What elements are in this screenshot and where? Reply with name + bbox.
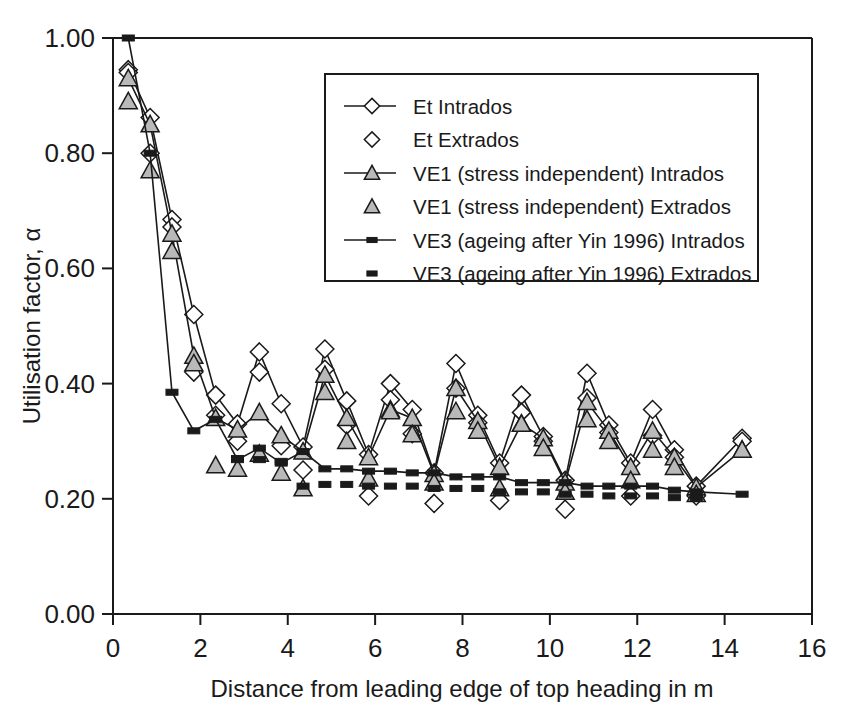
marker-filled-square bbox=[188, 428, 200, 434]
x-tick-label: 0 bbox=[106, 633, 120, 663]
x-tick-label: 14 bbox=[710, 633, 739, 663]
marker-filled-square bbox=[668, 487, 680, 493]
marker-filled-square bbox=[341, 466, 353, 472]
legend-item-5[interactable]: VE3 (ageing after Yin 1996) Extrados bbox=[367, 262, 752, 285]
x-tick-label: 10 bbox=[535, 633, 564, 663]
y-tick-label: 0.40 bbox=[44, 369, 95, 399]
chart-figure: 0.000.200.400.600.801.00 0246810121416 U… bbox=[0, 0, 854, 719]
marker-filled-square bbox=[275, 458, 287, 464]
y-tick-label: 0.20 bbox=[44, 484, 95, 514]
marker-filled-square bbox=[253, 457, 265, 463]
x-tick-label: 2 bbox=[193, 633, 207, 663]
marker-filled-square bbox=[297, 449, 309, 455]
marker-filled-square bbox=[494, 474, 506, 480]
x-tick-label: 12 bbox=[623, 633, 652, 663]
marker-filled-square bbox=[297, 483, 309, 489]
marker-filled-square bbox=[690, 495, 702, 501]
marker-filled-square bbox=[559, 491, 571, 497]
y-tick-label: 0.00 bbox=[44, 599, 95, 629]
marker-filled-square bbox=[515, 480, 527, 486]
marker-filled-square bbox=[625, 483, 637, 489]
marker-filled-square bbox=[647, 483, 659, 489]
x-tick-label: 8 bbox=[455, 633, 469, 663]
marker-filled-square bbox=[559, 480, 571, 486]
marker-filled-square bbox=[603, 483, 615, 489]
legend-label: Et Extrados bbox=[413, 128, 519, 151]
marker-filled-square bbox=[406, 470, 418, 476]
marker-filled-square bbox=[428, 470, 440, 476]
marker-filled-square bbox=[166, 389, 178, 395]
marker-filled-square bbox=[603, 493, 615, 499]
marker-filled-square bbox=[450, 474, 462, 480]
marker-filled-square bbox=[253, 445, 265, 451]
marker-filled-square bbox=[537, 480, 549, 486]
marker-filled-square bbox=[668, 495, 680, 501]
legend-label: Et Intrados bbox=[413, 95, 512, 118]
y-axis-title: Utilisation factor, α bbox=[18, 228, 45, 425]
marker-filled-square bbox=[232, 455, 244, 461]
marker-filled-square bbox=[428, 485, 440, 491]
x-tick-label: 16 bbox=[798, 633, 827, 663]
marker-filled-square bbox=[450, 485, 462, 491]
legend-item-3[interactable]: VE1 (stress independent) Extrados bbox=[364, 195, 731, 218]
marker-filled-square bbox=[625, 493, 637, 499]
marker-filled-square bbox=[341, 481, 353, 487]
chart-canvas: 0.000.200.400.600.801.00 0246810121416 U… bbox=[0, 0, 854, 719]
legend: Et IntradosEt ExtradosVE1 (stress indepe… bbox=[325, 74, 758, 285]
marker-filled-square bbox=[363, 468, 375, 474]
marker-filled-square bbox=[144, 150, 156, 156]
marker-filled-square bbox=[472, 485, 484, 491]
x-tick-label: 6 bbox=[368, 633, 382, 663]
marker-filled-square bbox=[537, 489, 549, 495]
marker-filled-square bbox=[647, 493, 659, 499]
marker-filled-square bbox=[210, 416, 222, 422]
marker-filled-square bbox=[363, 483, 375, 489]
legend-label: VE1 (stress independent) Intrados bbox=[413, 162, 724, 185]
marker-filled-square bbox=[319, 481, 331, 487]
marker-filled-square bbox=[384, 483, 396, 489]
marker-filled-square bbox=[319, 466, 331, 472]
marker-filled-square bbox=[367, 271, 377, 276]
marker-filled-square bbox=[406, 483, 418, 489]
legend-label: VE1 (stress independent) Extrados bbox=[413, 195, 731, 218]
marker-filled-square bbox=[122, 35, 134, 41]
marker-filled-square bbox=[494, 489, 506, 495]
marker-filled-square bbox=[472, 474, 484, 480]
marker-filled-square bbox=[367, 237, 377, 242]
x-axis-title: Distance from leading edge of top headin… bbox=[211, 675, 714, 702]
y-tick-label: 0.80 bbox=[44, 138, 95, 168]
x-tick-label: 4 bbox=[281, 633, 295, 663]
marker-filled-square bbox=[581, 483, 593, 489]
marker-filled-square bbox=[581, 491, 593, 497]
marker-filled-square bbox=[690, 489, 702, 495]
marker-filled-square bbox=[384, 468, 396, 474]
marker-filled-square bbox=[515, 489, 527, 495]
marker-filled-square bbox=[736, 491, 748, 497]
legend-label: VE3 (ageing after Yin 1996) Intrados bbox=[413, 229, 745, 252]
y-tick-label: 1.00 bbox=[44, 23, 95, 53]
y-tick-label: 0.60 bbox=[44, 253, 95, 283]
legend-label: VE3 (ageing after Yin 1996) Extrados bbox=[413, 262, 751, 285]
